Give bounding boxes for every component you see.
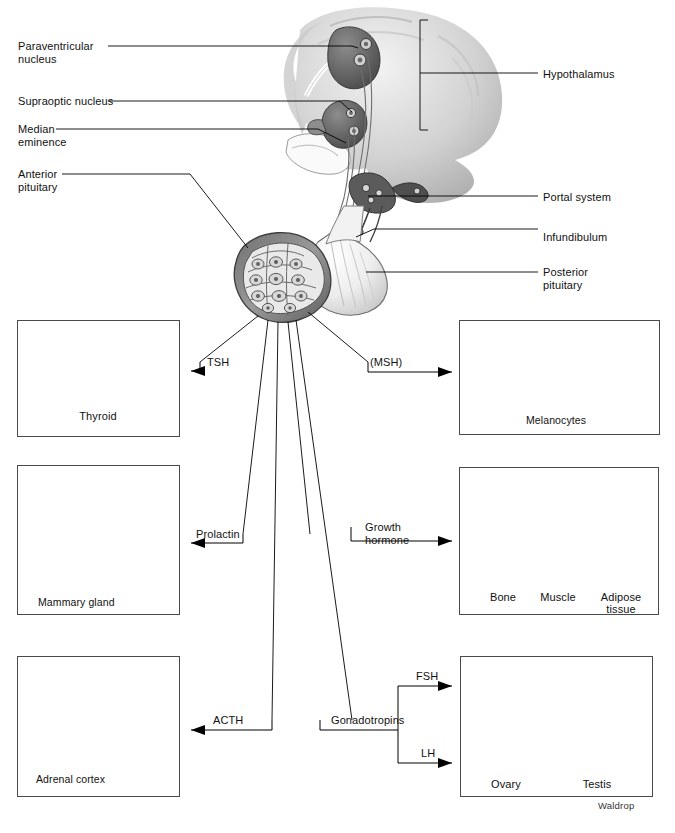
infundibulum-stalk bbox=[326, 206, 364, 244]
hormone-fan-lines bbox=[200, 312, 368, 720]
hormone-label-acth: ACTH bbox=[213, 714, 243, 727]
label-posterior-pituitary: Posterior pituitary bbox=[543, 266, 588, 291]
hormone-label-msh: (MSH) bbox=[370, 356, 402, 369]
arrowheads bbox=[191, 366, 452, 768]
label-paraventricular-nucleus: Paraventricular nucleus bbox=[18, 40, 93, 65]
leader-infundibulum bbox=[356, 229, 538, 237]
label-supraoptic-nucleus: Supraoptic nucleus bbox=[18, 95, 113, 108]
inner-label-adrenal-cortex: Adrenal cortex bbox=[36, 773, 105, 785]
hormone-label-gonadotropins: Gonadotropins bbox=[331, 714, 404, 727]
label-hypothalamus: Hypothalamus bbox=[543, 68, 615, 81]
hormone-label-tsh: TSH bbox=[207, 356, 229, 369]
hormone-label-prolactin: Prolactin bbox=[196, 528, 240, 541]
artist-credit: Waldrop bbox=[598, 800, 634, 811]
label-infundibulum: Infundibulum bbox=[543, 231, 607, 244]
organ-label-thyroid: Thyroid bbox=[63, 410, 133, 422]
organ-label-testis: Testis bbox=[569, 778, 625, 790]
inner-label-melanocytes: Melanocytes bbox=[526, 414, 586, 426]
fan-to-gonadotropins bbox=[296, 320, 352, 720]
brain-illustration bbox=[284, 7, 502, 218]
label-portal-system: Portal system bbox=[543, 191, 611, 204]
fan-to-msh bbox=[308, 312, 368, 362]
fan-to-acth bbox=[272, 322, 278, 720]
label-anterior-pituitary: Anterior pituitary bbox=[18, 168, 57, 193]
figure-canvas: Paraventricular nucleus Supraoptic nucle… bbox=[0, 0, 675, 833]
mammary-gland-panel bbox=[17, 465, 180, 615]
fan-to-prolactin bbox=[243, 320, 268, 534]
organ-label-muscle: Muscle bbox=[531, 591, 585, 603]
hormone-label-growth-hormone: Growth hormone bbox=[365, 521, 409, 546]
organ-label-ovary: Ovary bbox=[478, 778, 534, 790]
hormone-label-fsh: FSH bbox=[416, 670, 438, 683]
leader-anterior-pituitary bbox=[62, 174, 248, 248]
gonads-panel bbox=[460, 656, 653, 797]
hormone-arrows bbox=[191, 362, 452, 763]
hormone-label-lh: LH bbox=[421, 747, 435, 760]
organ-label-bone: Bone bbox=[479, 591, 527, 603]
organ-label-adipose-tissue: Adipose tissue bbox=[585, 591, 657, 615]
inner-label-mammary-gland: Mammary gland bbox=[38, 596, 115, 608]
label-median-eminence: Median eminence bbox=[18, 123, 67, 148]
